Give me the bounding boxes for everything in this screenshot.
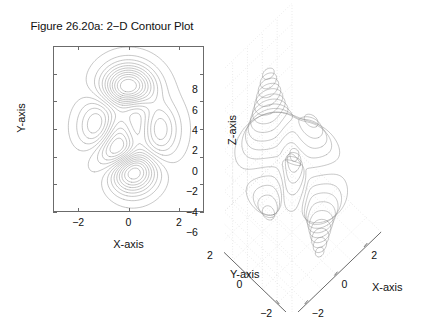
contour-2d-ytick-mark [200,46,204,47]
contour-2d-ytick-mark [200,157,204,158]
contour-2d-ytick-mark [53,46,57,47]
contour-2d-ytick-mark [200,129,204,130]
contour-2d-ytick-mark [53,129,57,130]
contour-3d-xtick-label: 2 [371,249,377,261]
contour-2d-ytick-mark [53,157,57,158]
contour-2d-xlabel: X-axis [53,238,204,250]
contour-2d-ytick-mark [53,74,57,75]
contour-3d-scene [224,0,432,312]
contour-3d-lines [235,68,348,257]
contour-2d-ytick-mark [53,184,57,185]
contour-3d-panel: Z-axis 86420−2−4−620−2−202Y-axisX-axis [224,0,432,312]
contour-2d-xtick-label: 0 [126,216,132,228]
contour-3d-xlabel: X-axis [372,281,403,293]
contour-3d-ztick-label: 6 [192,104,198,116]
contour-2d-ytick-mark [200,184,204,185]
contour-3d-zlabel: Z-axis [226,100,238,160]
contour-2d-xtick-mark [129,46,130,50]
contour-3d-ylabel: Y-axis [230,268,260,280]
contour-2d-xtick-mark [179,46,180,50]
contour-3d-ztick-label: −2 [186,185,198,197]
contour-2d-xtick-mark [179,208,180,212]
contour-3d-gridlines [224,3,381,312]
contour-2d-ytick-mark [53,212,57,213]
contour-2d-ytick-mark [200,101,204,102]
contour-3d-ztick-label: 2 [192,144,198,156]
contour-2d-ytick-mark [200,212,204,213]
contour-3d-ytick-label: 2 [207,249,213,261]
contour-2d-axes [53,46,204,212]
contour-3d-ztick-label: −4 [186,206,198,218]
contour-2d-ytick-mark [200,74,204,75]
contour-2d-xtick-label: 2 [176,216,182,228]
contour-3d-ytick-label: −2 [260,307,272,319]
page-title: Figure 26.20a: 2−D Contour Plot [0,20,224,32]
contour-2d-ytick-mark [53,101,57,102]
contour-3d-ztick-label: 8 [192,83,198,95]
contour-3d-xtick-label: 0 [342,278,348,290]
contour-2d-ylabel: Y-axis [15,88,27,148]
contour-2d-xtick-mark [78,46,79,50]
contour-3d-ztick-label: −6 [186,226,198,238]
contour-2d-lines [54,47,203,211]
contour-2d-xtick-mark [78,208,79,212]
contour-3d-xtick-label: −2 [312,307,324,319]
contour-2d-xtick-mark [129,208,130,212]
contour-3d-ztick-label: 0 [192,165,198,177]
contour-3d-ztick-label: 4 [192,124,198,136]
contour-2d-xtick-label: −2 [72,216,84,228]
